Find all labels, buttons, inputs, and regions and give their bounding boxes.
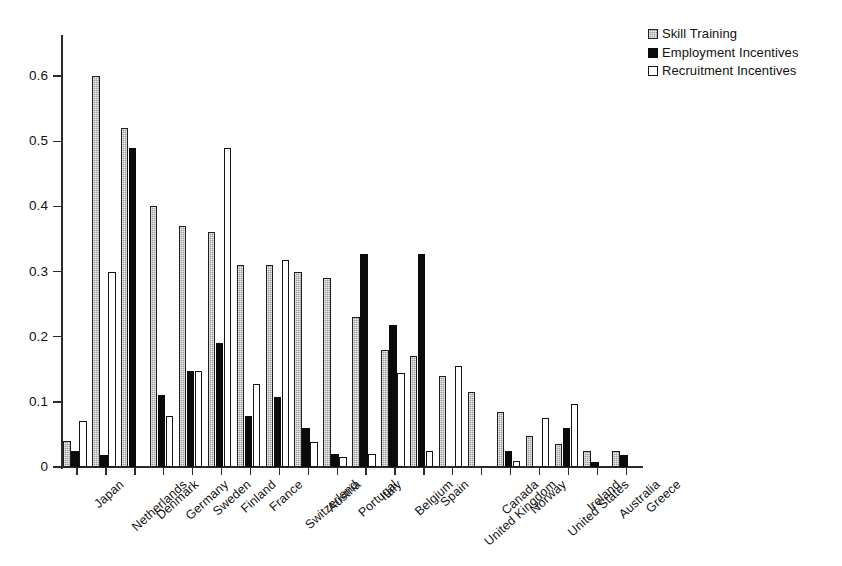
bar-skill (179, 226, 186, 467)
legend-label: Employment Incentives (662, 46, 799, 60)
y-tick-label: 0.2 (2, 330, 48, 343)
x-tick-mark (568, 467, 569, 475)
bar-skill (526, 436, 533, 467)
bar-chart: 00.10.20.30.40.50.6 JapanNetherlandsDenm… (0, 0, 842, 566)
x-tick-mark (452, 467, 453, 475)
x-tick-mark (163, 467, 164, 475)
bar-skill (352, 317, 359, 467)
y-tick-mark (53, 466, 62, 467)
x-tick-mark (192, 467, 193, 475)
y-tick-mark (53, 75, 62, 76)
legend-swatch-employment-icon (648, 48, 658, 58)
bar-skill (555, 444, 562, 467)
x-tick-mark (597, 467, 598, 475)
x-tick-mark (510, 467, 511, 475)
bar-recruitment (282, 260, 289, 467)
bar-skill (583, 451, 590, 467)
y-tick-mark (53, 401, 62, 402)
bar-recruitment (224, 148, 231, 467)
y-tick-label: 0 (2, 460, 48, 473)
bar-recruitment (455, 366, 462, 467)
y-tick-mark (53, 206, 62, 207)
chart-legend: Skill TrainingEmployment IncentivesRecru… (648, 26, 834, 82)
bar-skill (237, 265, 244, 467)
legend-item-recruitment[interactable]: Recruitment Incentives (648, 63, 834, 79)
x-tick-mark (626, 467, 627, 475)
bar-skill (323, 278, 330, 467)
bar-skill (208, 232, 215, 467)
y-tick-label: 0.6 (2, 69, 48, 82)
x-tick-mark (105, 467, 106, 475)
legend-item-skill[interactable]: Skill Training (648, 26, 834, 42)
y-tick-label: 0.1 (2, 395, 48, 408)
bar-employment (216, 343, 223, 467)
bar-employment (158, 395, 165, 467)
y-tick-label: 0.4 (2, 199, 48, 212)
bar-skill (410, 356, 417, 467)
x-tick-label: Japan (92, 478, 127, 511)
legend-swatch-skill-icon (648, 29, 658, 39)
bar-employment (591, 462, 598, 467)
legend-label: Skill Training (662, 27, 737, 41)
bar-recruitment (79, 421, 86, 467)
bar-employment (274, 397, 281, 467)
bar-recruitment (571, 404, 578, 467)
bar-employment (302, 428, 309, 467)
bar-skill (121, 128, 128, 467)
x-tick-mark (221, 467, 222, 475)
y-tick-mark (53, 141, 62, 142)
x-tick-mark (481, 467, 482, 475)
x-tick-mark (365, 467, 366, 475)
y-tick-mark (53, 336, 62, 337)
bar-employment (418, 254, 425, 467)
legend-swatch-recruitment-icon (648, 66, 658, 76)
bar-employment (620, 455, 627, 467)
x-axis-label-japan: Japan (92, 478, 127, 511)
bar-skill (612, 451, 619, 467)
bar-employment (187, 371, 194, 467)
bar-skill (439, 376, 446, 467)
x-tick-mark (308, 467, 309, 475)
x-axis-label-italy: Italy (379, 478, 405, 504)
bar-employment (100, 455, 107, 467)
bar-recruitment (166, 416, 173, 467)
bar-employment (563, 428, 570, 467)
x-tick-label: Italy (379, 478, 405, 504)
bar-employment (505, 451, 512, 467)
y-tick-label: 0.3 (2, 265, 48, 278)
x-tick-mark (250, 467, 251, 475)
y-tick-mark (53, 271, 62, 272)
bar-recruitment (108, 272, 115, 467)
bar-recruitment (195, 371, 202, 467)
bar-employment (129, 148, 136, 467)
bar-recruitment (253, 384, 260, 467)
bar-recruitment (339, 457, 346, 467)
x-tick-mark (539, 467, 540, 475)
bar-recruitment (397, 373, 404, 467)
x-tick-mark (134, 467, 135, 475)
bar-employment (389, 325, 396, 467)
y-tick-label: 0.5 (2, 134, 48, 147)
legend-label: Recruitment Incentives (662, 64, 796, 78)
bar-skill (497, 412, 504, 467)
bar-skill (63, 441, 70, 467)
bar-recruitment (513, 461, 520, 468)
bar-employment (71, 451, 78, 467)
bar-skill (150, 206, 157, 467)
x-tick-mark (76, 467, 77, 475)
bar-recruitment (426, 451, 433, 467)
bar-employment (331, 454, 338, 467)
x-tick-mark (279, 467, 280, 475)
bar-skill (266, 265, 273, 467)
bar-skill (468, 392, 475, 467)
bar-recruitment (542, 418, 549, 467)
bar-skill (294, 272, 301, 467)
x-tick-mark (337, 467, 338, 475)
bar-recruitment (368, 454, 375, 467)
x-tick-mark (394, 467, 395, 475)
legend-item-employment[interactable]: Employment Incentives (648, 45, 834, 61)
plot-area (62, 37, 640, 467)
bar-employment (360, 254, 367, 467)
bar-recruitment (310, 442, 317, 467)
bar-skill (381, 350, 388, 467)
